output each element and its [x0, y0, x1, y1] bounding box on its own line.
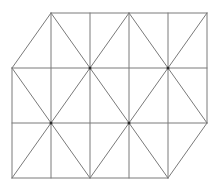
triangulated-grid-diagram	[0, 0, 221, 185]
vertex-node	[167, 67, 170, 70]
vertex-node	[89, 67, 92, 70]
background	[0, 0, 221, 185]
vertex-node	[128, 122, 131, 125]
vertex-node	[50, 122, 53, 125]
